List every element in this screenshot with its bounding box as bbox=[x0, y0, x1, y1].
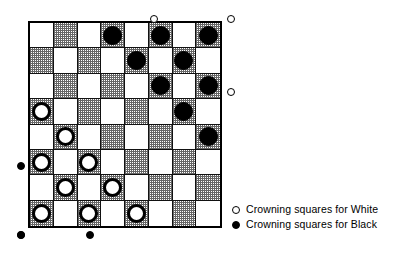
board-square-r8c6[interactable] bbox=[149, 201, 173, 226]
board-square-r7c4[interactable] bbox=[101, 175, 125, 200]
board-square-r3c6[interactable] bbox=[149, 74, 173, 99]
white-piece[interactable] bbox=[32, 153, 51, 172]
legend-label-black: Crowning squares for Black bbox=[246, 218, 377, 231]
open-circle-icon bbox=[232, 206, 240, 214]
board-square-r4c1[interactable] bbox=[30, 99, 54, 124]
board-square-r6c6[interactable] bbox=[149, 150, 173, 175]
black-piece[interactable] bbox=[174, 51, 193, 70]
board-square-r6c3[interactable] bbox=[78, 150, 102, 175]
board-square-r2c4[interactable] bbox=[101, 48, 125, 73]
black-crown-bottom-2 bbox=[86, 231, 94, 239]
board-square-r5c7[interactable] bbox=[173, 125, 197, 150]
white-piece[interactable] bbox=[56, 127, 75, 146]
board-square-r6c4[interactable] bbox=[101, 150, 125, 175]
board-square-r3c5[interactable] bbox=[125, 74, 149, 99]
black-piece[interactable] bbox=[151, 26, 170, 45]
board-square-r3c3[interactable] bbox=[78, 74, 102, 99]
black-piece[interactable] bbox=[103, 26, 122, 45]
board-square-r5c1[interactable] bbox=[30, 125, 54, 150]
board-square-r3c4[interactable] bbox=[101, 74, 125, 99]
black-crown-bottom-1 bbox=[17, 231, 25, 239]
board-square-r1c6[interactable] bbox=[149, 23, 173, 48]
white-piece[interactable] bbox=[79, 204, 98, 223]
board-square-r8c7[interactable] bbox=[173, 201, 197, 226]
board-square-r2c6[interactable] bbox=[149, 48, 173, 73]
legend-row-white: Crowning squares for White bbox=[232, 203, 412, 216]
board-square-r4c3[interactable] bbox=[78, 99, 102, 124]
white-crown-top-2 bbox=[227, 15, 235, 23]
board-square-r1c2[interactable] bbox=[54, 23, 78, 48]
board-square-r8c4[interactable] bbox=[101, 201, 125, 226]
board-square-r4c4[interactable] bbox=[101, 99, 125, 124]
black-piece[interactable] bbox=[199, 127, 218, 146]
filled-circle-icon bbox=[232, 221, 240, 229]
board-square-r1c3[interactable] bbox=[78, 23, 102, 48]
board-square-r6c2[interactable] bbox=[54, 150, 78, 175]
board-square-r8c8[interactable] bbox=[196, 201, 220, 226]
board-square-r2c7[interactable] bbox=[173, 48, 197, 73]
board-square-r5c5[interactable] bbox=[125, 125, 149, 150]
board-square-r7c7[interactable] bbox=[173, 175, 197, 200]
board-square-r7c5[interactable] bbox=[125, 175, 149, 200]
board-square-r6c7[interactable] bbox=[173, 150, 197, 175]
draughts-crowning-diagram: Crowning squares for White Crowning squa… bbox=[0, 0, 415, 254]
white-piece[interactable] bbox=[79, 153, 98, 172]
legend-label-white: Crowning squares for White bbox=[246, 203, 378, 216]
legend-row-black: Crowning squares for Black bbox=[232, 218, 412, 231]
board-square-r2c2[interactable] bbox=[54, 48, 78, 73]
board-square-r8c2[interactable] bbox=[54, 201, 78, 226]
black-piece[interactable] bbox=[199, 76, 218, 95]
white-piece[interactable] bbox=[103, 178, 122, 197]
white-piece[interactable] bbox=[127, 204, 146, 223]
black-piece[interactable] bbox=[127, 51, 146, 70]
board-square-r2c1[interactable] bbox=[30, 48, 54, 73]
black-piece[interactable] bbox=[199, 26, 218, 45]
board-square-r4c5[interactable] bbox=[125, 99, 149, 124]
board-square-r3c2[interactable] bbox=[54, 74, 78, 99]
board-square-r1c5[interactable] bbox=[125, 23, 149, 48]
board-square-r3c8[interactable] bbox=[196, 74, 220, 99]
board-square-r4c7[interactable] bbox=[173, 99, 197, 124]
board-square-r2c3[interactable] bbox=[78, 48, 102, 73]
white-crown-top-1 bbox=[150, 15, 158, 23]
board-square-r7c1[interactable] bbox=[30, 175, 54, 200]
board-square-r6c8[interactable] bbox=[196, 150, 220, 175]
board-square-r5c8[interactable] bbox=[196, 125, 220, 150]
black-piece[interactable] bbox=[174, 102, 193, 121]
legend: Crowning squares for White Crowning squa… bbox=[232, 203, 412, 233]
board-square-r1c1[interactable] bbox=[30, 23, 54, 48]
board-square-r1c8[interactable] bbox=[196, 23, 220, 48]
white-piece[interactable] bbox=[32, 204, 51, 223]
board-square-r7c3[interactable] bbox=[78, 175, 102, 200]
board-square-r4c2[interactable] bbox=[54, 99, 78, 124]
black-piece[interactable] bbox=[151, 76, 170, 95]
board-square-r5c3[interactable] bbox=[78, 125, 102, 150]
white-piece[interactable] bbox=[32, 102, 51, 121]
checkerboard bbox=[28, 21, 222, 228]
white-piece[interactable] bbox=[56, 178, 75, 197]
board-square-r3c7[interactable] bbox=[173, 74, 197, 99]
board-square-r7c6[interactable] bbox=[149, 175, 173, 200]
board-square-r5c4[interactable] bbox=[101, 125, 125, 150]
black-crown-left-1 bbox=[17, 162, 25, 170]
board-square-r3c1[interactable] bbox=[30, 74, 54, 99]
board-square-r4c8[interactable] bbox=[196, 99, 220, 124]
board-square-r5c6[interactable] bbox=[149, 125, 173, 150]
board-square-r8c5[interactable] bbox=[125, 201, 149, 226]
board-square-r8c1[interactable] bbox=[30, 201, 54, 226]
board-square-r2c5[interactable] bbox=[125, 48, 149, 73]
board-square-r1c7[interactable] bbox=[173, 23, 197, 48]
white-crown-right-1 bbox=[227, 88, 235, 96]
board-square-r1c4[interactable] bbox=[101, 23, 125, 48]
board-grid bbox=[30, 23, 220, 226]
board-square-r7c2[interactable] bbox=[54, 175, 78, 200]
board-square-r6c1[interactable] bbox=[30, 150, 54, 175]
board-square-r2c8[interactable] bbox=[196, 48, 220, 73]
board-square-r5c2[interactable] bbox=[54, 125, 78, 150]
board-square-r8c3[interactable] bbox=[78, 201, 102, 226]
board-square-r7c8[interactable] bbox=[196, 175, 220, 200]
board-square-r6c5[interactable] bbox=[125, 150, 149, 175]
board-square-r4c6[interactable] bbox=[149, 99, 173, 124]
